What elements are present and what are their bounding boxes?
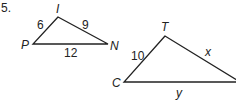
vertex-P: P — [21, 38, 29, 52]
side-T-right-length: x — [204, 45, 212, 59]
side-IN-length: 9 — [82, 18, 89, 32]
vertex-N: N — [110, 39, 119, 53]
side-CT-length: 10 — [131, 49, 145, 63]
vertex-I: I — [56, 2, 60, 16]
vertex-T: T — [161, 20, 170, 34]
side-PI-length: 6 — [37, 18, 44, 32]
triangle-PIN — [33, 17, 108, 44]
similar-triangles-diagram: 5. I P N 6 9 12 T C 10 x y — [0, 0, 236, 101]
side-C-right-length: y — [175, 86, 183, 100]
side-PN-length: 12 — [64, 46, 78, 60]
problem-number: 5. — [1, 1, 11, 15]
vertex-C: C — [112, 76, 121, 90]
